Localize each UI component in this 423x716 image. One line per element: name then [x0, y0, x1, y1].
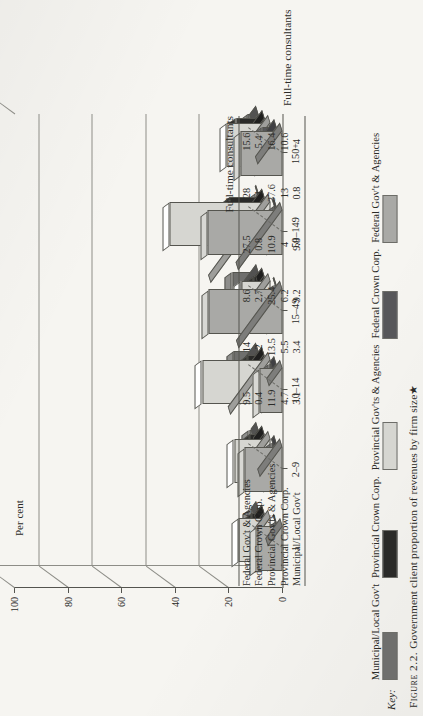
table-row-label: Provincial Gov'ts & Agencies — [265, 424, 276, 586]
table-cell: 1 — [252, 167, 263, 218]
y-axis-title: Per cent — [12, 500, 24, 536]
chart-legend: Key: Municipal/Local Gov'tProvincial Cro… — [369, 133, 397, 710]
legend-items: Municipal/Local Gov'tProvincial Crown Co… — [369, 133, 397, 680]
table-cell: 10.6 — [278, 116, 289, 167]
table-row: Federal Crown Corp.0.422.70.815.4 — [252, 116, 265, 586]
y-axis-tick-label: 100 — [9, 590, 20, 612]
table-cell: 27.5 — [240, 219, 251, 270]
table-cell: 9.8 — [290, 219, 301, 270]
bar-top-face — [194, 360, 201, 410]
table-cell: 8.6 — [240, 270, 251, 321]
legend-swatch — [382, 422, 397, 470]
y-axis-line — [14, 587, 282, 588]
table-cell: 6.2 — [278, 270, 289, 321]
table-cell: 11.9 — [265, 373, 276, 424]
table-cell: 4.7 — [278, 373, 289, 424]
gridline-connector — [0, 566, 15, 589]
table-cell: 16.4 — [265, 116, 276, 167]
table-row-label: Provincial Crown Corp. — [278, 424, 289, 586]
figure-caption-text: Government client proportion of revenues… — [406, 384, 418, 648]
legend-item: Municipal/Local Gov't — [369, 584, 397, 680]
table-row-label: Federal Crown Corp. — [252, 424, 263, 586]
scanned-page: Per cent 020406080100 12–910–1415–4950–1… — [0, 0, 423, 716]
table-cell: 37.6 — [265, 167, 276, 218]
table-cell: 0.8 — [290, 167, 301, 218]
figure-2-2: Per cent 020406080100 12–910–1415–4950–1… — [0, 0, 423, 716]
gridline — [198, 114, 199, 566]
figure-number: Figure 2.2. — [406, 652, 418, 708]
gridline-connector — [91, 566, 122, 589]
bar-top-face — [231, 518, 238, 568]
table-cell: 3.1 — [290, 373, 301, 424]
legend-item-label: Provincial Gov'ts & Agencies — [369, 345, 380, 471]
gridline-connector — [199, 566, 230, 589]
bar-top-face — [226, 439, 233, 489]
table-cell: 28 — [240, 167, 251, 218]
data-table: Full-time consultants Federal Gov't & Ag… — [238, 116, 305, 586]
legend-swatch — [382, 530, 397, 578]
legend-item: Provincial Gov'ts & Agencies — [369, 345, 397, 471]
table-cell: 13 — [278, 167, 289, 218]
table-cell: 4 — [290, 116, 301, 167]
table-rule-bottom — [304, 116, 305, 586]
table-cell: 9.5 — [240, 373, 251, 424]
gridline — [38, 114, 39, 566]
gridline-connector — [145, 566, 176, 589]
figure-stage: Per cent 020406080100 12–910–1415–4950–1… — [0, 0, 423, 716]
legend-item-label: Federal Crown Corp. — [369, 249, 380, 339]
table-row: Municipal/Local Gov't3.13.49.29.80.84 — [289, 116, 302, 586]
table-cell: 25.4 — [265, 270, 276, 321]
table-cell: 5.5 — [278, 321, 289, 372]
table-cell: 4 — [278, 219, 289, 270]
bar-top-face — [201, 289, 208, 339]
legend-item: Federal Crown Corp. — [369, 249, 397, 339]
gridline-connector — [38, 566, 69, 589]
x-axis-title: Full-time consultants — [280, 10, 292, 107]
table-cell: 10.9 — [265, 219, 276, 270]
table-row-label: Municipal/Local Gov't — [290, 424, 301, 586]
y-axis-tick — [67, 588, 68, 593]
table-cell: 15.6 — [240, 116, 251, 167]
table-cell: 14 — [240, 321, 251, 372]
table-cell: 3.4 — [290, 321, 301, 372]
legend-item-label: Provincial Crown Corp. — [369, 476, 380, 578]
gridline — [145, 114, 146, 566]
bar-top-face — [162, 202, 169, 252]
table-cell: 9.2 — [290, 270, 301, 321]
legend-swatch — [382, 291, 397, 339]
legend-item-label: Federal Gov't & Agencies — [369, 133, 380, 243]
legend-swatch — [382, 195, 397, 243]
table-row: Provincial Gov'ts & Agencies11.913.525.4… — [264, 116, 277, 586]
table-cell: 13.5 — [265, 321, 276, 372]
table-cell: 2 — [252, 321, 263, 372]
legend-title: Key: — [384, 689, 397, 710]
legend-item: Federal Gov't & Agencies — [369, 133, 397, 243]
legend-swatch — [382, 632, 397, 680]
y-axis-tick — [174, 588, 175, 593]
table-row-label: Federal Gov't & Agencies — [240, 424, 251, 586]
table-cell: 5.4 — [252, 116, 263, 167]
table-row: Provincial Crown Corp.4.75.56.241310.6 — [277, 116, 290, 586]
y-axis-back-line — [0, 565, 252, 566]
table-cell: 2.7 — [252, 270, 263, 321]
bar-top-face — [200, 210, 207, 260]
table-cell: 0.8 — [252, 219, 263, 270]
table-cell: 0.4 — [252, 373, 263, 424]
legend-item: Provincial Crown Corp. — [369, 476, 397, 578]
table-body: Federal Gov't & Agencies9.5148.627.52815… — [239, 116, 302, 586]
table-row: Federal Gov't & Agencies9.5148.627.52815… — [239, 116, 252, 586]
legend-item-label: Municipal/Local Gov't — [369, 584, 380, 680]
gridline — [91, 114, 92, 566]
figure-caption: Figure 2.2. Government client proportion… — [405, 8, 419, 708]
back-wall-right-slant — [0, 92, 15, 115]
table-header-label: Full-time consultants — [222, 116, 234, 213]
y-axis-tick — [282, 588, 283, 593]
